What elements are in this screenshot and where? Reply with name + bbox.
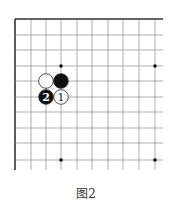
- move-number-label: 2: [42, 91, 50, 104]
- black-stone: [54, 74, 69, 89]
- star-point: [59, 64, 63, 68]
- star-point: [153, 158, 157, 162]
- white-stone: [39, 74, 54, 89]
- figure-caption: 图2: [0, 184, 172, 201]
- star-point: [59, 158, 63, 162]
- move-number-label: 1: [58, 91, 65, 104]
- star-point: [153, 64, 157, 68]
- go-board: 21: [0, 0, 172, 180]
